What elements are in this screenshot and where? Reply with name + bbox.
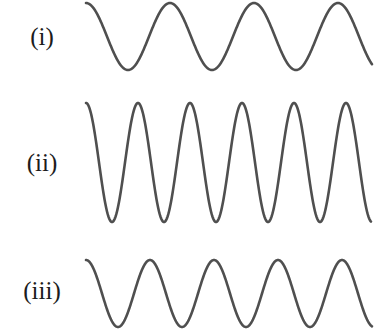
wave-label-iii: (iii)	[0, 278, 84, 303]
wave-label-ii: (ii)	[0, 150, 84, 175]
wave-label-i: (i)	[0, 24, 84, 49]
wave-curve-ii	[86, 103, 371, 222]
wave-figure: (i) (ii) (iii)	[0, 0, 388, 334]
wave-curve-i	[86, 3, 372, 70]
wave-curve-iii	[86, 260, 372, 327]
